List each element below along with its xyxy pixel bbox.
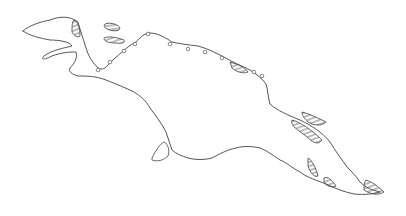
island-south: [152, 142, 169, 161]
hatched-region-bird-head: [72, 20, 80, 37]
hatched-island-1: [103, 22, 120, 32]
hatched-region-tip: [364, 180, 384, 194]
hatched-region-southeast-2: [324, 177, 336, 186]
map-canvas: [0, 0, 406, 216]
hatched-region-southeast-1: [308, 158, 318, 176]
coastline: [23, 17, 380, 194]
hatched-island-2: [104, 37, 125, 43]
